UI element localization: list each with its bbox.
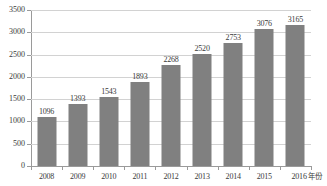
bar-group: 1543 [93,10,124,166]
plot-area: 109613931543189322682520275330763165 [31,10,311,166]
bar-group: 2753 [218,10,249,166]
bar-value-label: 1096 [39,108,54,116]
bar[interactable] [130,82,149,166]
y-axis-tick-label: 2500 [0,51,25,59]
bar[interactable] [37,117,56,166]
y-axis-tick-label: 1000 [0,117,25,125]
bar[interactable] [68,104,87,166]
x-axis-tick [31,166,32,170]
x-axis-tick-label: 2011 [124,172,155,181]
bar-group: 1893 [124,10,155,166]
bar[interactable] [99,97,118,166]
bar-group: 2520 [187,10,218,166]
x-axis-tick [249,166,250,170]
bar-value-label: 2753 [226,34,241,42]
bar-group: 3165 [280,10,311,166]
bar[interactable] [224,43,243,166]
x-axis-tick [155,166,156,170]
axis-baseline [31,166,311,167]
bar[interactable] [193,54,212,166]
bar[interactable] [286,25,305,166]
bar-group: 2268 [155,10,186,166]
y-axis-tick-label: 1500 [0,95,25,103]
x-axis-tick-label: 2008 [31,172,62,181]
x-axis-tick-label: 2015 [249,172,280,181]
x-axis-tick-label: 2010 [93,172,124,181]
y-axis-tick-label: 2000 [0,73,25,81]
x-axis-tick-label: 2014 [218,172,249,181]
bar-value-label: 3165 [288,16,303,24]
y-axis-tick-label: 3000 [0,28,25,36]
x-axis-tick [93,166,94,170]
x-axis-tick [124,166,125,170]
x-axis-tick [280,166,281,170]
x-axis-tick-label: 2016年份 [280,172,327,181]
bar-value-label: 2268 [163,56,178,64]
bar-value-label: 1543 [101,88,116,96]
bar-group: 3076 [249,10,280,166]
x-axis-tick-label: 2013 [187,172,218,181]
x-axis-title: 年份 [308,172,322,181]
x-axis-tick [62,166,63,170]
bar-group: 1393 [62,10,93,166]
x-axis-tick-label: 2009 [62,172,93,181]
x-axis-tick [187,166,188,170]
bar[interactable] [255,29,274,166]
x-axis-tick-label: 2012 [155,172,186,181]
x-axis-tick [218,166,219,170]
bar-value-label: 1393 [70,95,85,103]
bar[interactable] [161,65,180,166]
y-axis-tick-label: 3500 [0,6,25,14]
bar-value-label: 1893 [132,73,147,81]
y-axis-tick-label: 0 [0,162,25,170]
bar-value-label: 2520 [194,45,209,53]
bar-group: 1096 [31,10,62,166]
x-axis-tick [311,166,312,170]
y-axis-tick-label: 500 [0,140,25,148]
bar-value-label: 3076 [257,20,272,28]
